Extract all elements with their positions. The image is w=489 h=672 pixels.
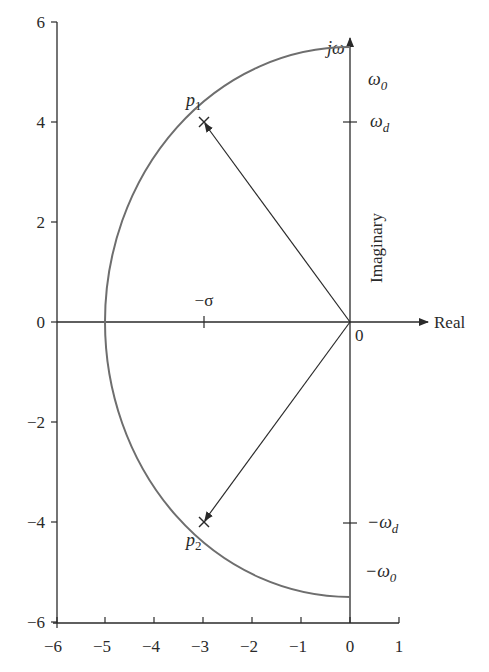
- y-tick-4: 4: [37, 113, 46, 132]
- y-tick-labels: 6 4 2 0 −2 −4 −6: [27, 13, 46, 632]
- x-tick-neg1: −1: [289, 637, 307, 656]
- p1-label: p1: [184, 90, 202, 113]
- x-tick-neg3: −3: [191, 637, 209, 656]
- p2-label: p2: [184, 530, 202, 553]
- y-tick-neg2: −2: [27, 413, 45, 432]
- y-tick-2: 2: [37, 213, 46, 232]
- y-tick-neg4: −4: [27, 513, 46, 532]
- x-tick-neg5: −5: [93, 637, 111, 656]
- y-tick-neg6: −6: [27, 613, 45, 632]
- real-axis-label: Real: [434, 313, 465, 332]
- neg-omega0-label: −ω0: [365, 561, 397, 585]
- omegad-label: ωd: [370, 111, 390, 135]
- imaginary-axis-label: Imaginary: [367, 213, 386, 283]
- p1-vector: [205, 124, 350, 322]
- x-tick-labels: −6 −5 −4 −3 −2 −1 0 1: [44, 637, 403, 656]
- y-tick-0: 0: [37, 313, 46, 332]
- neg-omegad-label: −ωd: [367, 512, 399, 536]
- p1-marker: [199, 117, 209, 127]
- x-tick-neg6: −6: [44, 637, 62, 656]
- y-tick-6: 6: [37, 13, 46, 32]
- p2-vector: [205, 322, 350, 520]
- origin-label: 0: [355, 326, 364, 345]
- x-tick-neg2: −2: [240, 637, 258, 656]
- x-tick-neg4: −4: [142, 637, 161, 656]
- sigma-label: −σ: [195, 291, 214, 310]
- omega0-label: ω0: [368, 69, 388, 93]
- y-ticks: [51, 22, 57, 622]
- x-tick-0: 0: [346, 637, 355, 656]
- x-tick-1: 1: [395, 637, 404, 656]
- p2-marker: [199, 517, 209, 527]
- s-plane-chart: 6 4 2 0 −2 −4 −6 −6 −5 −4 −3 −2 −1 0 1 R…: [0, 0, 489, 672]
